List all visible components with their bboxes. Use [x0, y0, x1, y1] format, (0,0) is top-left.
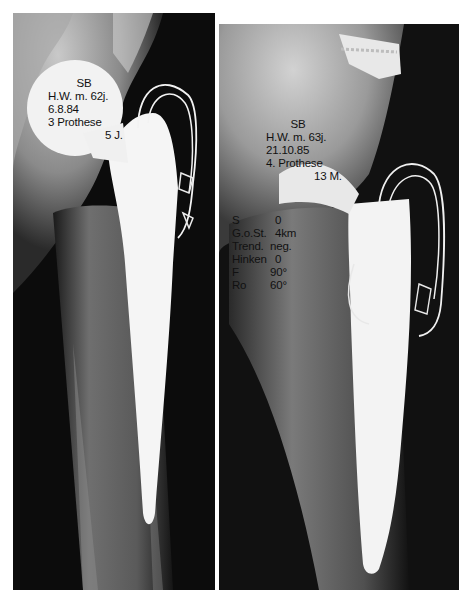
patient-id: SB [48, 77, 120, 90]
patient-id: SB [266, 118, 330, 131]
score-row: Ro60° [232, 279, 296, 292]
time-since-surgery: 5 J. [48, 129, 123, 142]
patient-name-age: H.W. m. 62j. [48, 90, 123, 103]
score-row: G.o.St.4km [232, 227, 296, 240]
clinical-scores: S0 G.o.St.4km Trend.neg. Hinken0 F90° Ro… [232, 214, 296, 292]
right-xray-annotation: SB H.W. m. 63j. 21.10.85 4. Prothese 13 … [266, 118, 342, 183]
time-since-surgery: 13 M. [266, 170, 342, 183]
xray-date: 21.10.85 [266, 144, 342, 157]
left-radiograph: SB H.W. m. 62j. 6.8.84 3 Prothese 5 J. [13, 13, 215, 590]
left-xray-annotation: SB H.W. m. 62j. 6.8.84 3 Prothese 5 J. [48, 77, 123, 142]
score-row: Hinken0 [232, 253, 296, 266]
xray-date: 6.8.84 [48, 103, 123, 116]
patient-name-age: H.W. m. 63j. [266, 131, 342, 144]
score-row: F90° [232, 266, 296, 279]
score-row: S0 [232, 214, 296, 227]
prosthesis-number: 3 Prothese [48, 116, 123, 129]
prosthesis-number: 4. Prothese [266, 157, 342, 170]
score-row: Trend.neg. [232, 240, 296, 253]
right-radiograph: SB H.W. m. 63j. 21.10.85 4. Prothese 13 … [219, 24, 459, 590]
right-xray-image [219, 24, 459, 590]
